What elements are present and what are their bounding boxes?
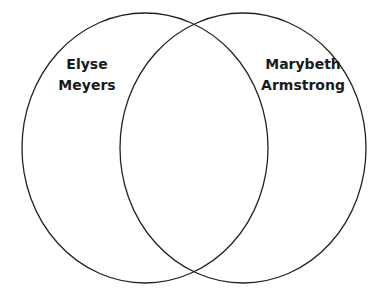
right-label-line-1: Marybeth (256, 54, 350, 75)
right-set-label: Marybeth Armstrong (256, 54, 350, 96)
left-label-line-1: Elyse (55, 54, 119, 75)
left-label-line-2: Meyers (55, 75, 119, 96)
right-label-line-2: Armstrong (256, 75, 350, 96)
left-set-label: Elyse Meyers (55, 54, 119, 96)
venn-diagram (0, 0, 378, 302)
